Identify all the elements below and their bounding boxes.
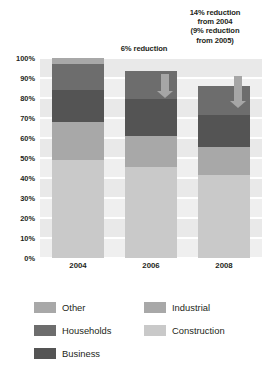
y-tick-0: 0% xyxy=(24,254,35,263)
y-tick-20: 20% xyxy=(20,214,35,223)
annotation-2008: 14% reductionfrom 2004(9% reductionfrom … xyxy=(168,8,262,45)
y-tick-80: 80% xyxy=(20,94,35,103)
legend-swatch-business xyxy=(34,348,56,359)
legend-swatch-households xyxy=(34,325,56,336)
y-tick-40: 40% xyxy=(20,174,35,183)
legend-swatch-construction xyxy=(144,325,166,336)
bar-2006[interactable] xyxy=(125,71,177,258)
down-arrow-icon-2006 xyxy=(157,74,173,98)
legend-label-industrial: Industrial xyxy=(172,301,210,314)
y-tick-60: 60% xyxy=(20,134,35,143)
bar-segment-business-2004[interactable] xyxy=(52,90,104,122)
down-arrow-icon-2008 xyxy=(230,76,246,108)
bar-segment-industrial-2006[interactable] xyxy=(125,136,177,167)
y-tick-70: 70% xyxy=(20,114,35,123)
stacked-bar-chart: 0%10%20%30%40%50%60%70%80%90%100% 2004 2… xyxy=(0,58,266,273)
bar-segment-business-2008[interactable] xyxy=(198,115,250,147)
arrow-head xyxy=(157,91,173,98)
y-tick-100: 100% xyxy=(16,54,35,63)
x-axis: 2004 2006 2008 xyxy=(40,261,262,275)
legend-label-households: Households xyxy=(62,324,112,337)
y-axis: 0%10%20%30%40%50%60%70%80%90%100% xyxy=(0,58,38,258)
annotation-2006: 6% reduction xyxy=(104,44,184,53)
legend-label-construction: Construction xyxy=(172,324,225,337)
arrow-shaft xyxy=(234,76,242,101)
bar-segment-households-2004[interactable] xyxy=(52,64,104,90)
chart-annotations: 6% reduction 14% reductionfrom 2004(9% r… xyxy=(0,0,266,62)
y-tick-50: 50% xyxy=(20,154,35,163)
arrow-head xyxy=(230,101,246,108)
bar-segment-construction-2004[interactable] xyxy=(52,160,104,258)
legend-label-other: Other xyxy=(62,301,85,314)
bar-segment-industrial-2004[interactable] xyxy=(52,122,104,160)
plot-area xyxy=(40,58,262,258)
legend-swatch-other xyxy=(34,302,56,313)
bar-segment-industrial-2008[interactable] xyxy=(198,147,250,175)
arrow-shaft xyxy=(161,74,169,91)
bar-2004[interactable] xyxy=(52,58,104,258)
legend-swatch-industrial xyxy=(144,302,166,313)
bar-segment-other-2004[interactable] xyxy=(52,58,104,64)
bar-2008[interactable] xyxy=(198,86,250,258)
bar-segment-business-2006[interactable] xyxy=(125,99,177,136)
y-tick-30: 30% xyxy=(20,194,35,203)
x-tick-2006: 2006 xyxy=(125,261,177,270)
chart-legend: OtherHouseholdsBusinessIndustrialConstru… xyxy=(22,297,248,373)
legend-label-business: Business xyxy=(62,347,100,360)
bar-segment-construction-2008[interactable] xyxy=(198,175,250,258)
x-tick-2004: 2004 xyxy=(52,261,104,270)
bar-segment-construction-2006[interactable] xyxy=(125,167,177,258)
y-tick-90: 90% xyxy=(20,74,35,83)
y-tick-10: 10% xyxy=(20,234,35,243)
x-tick-2008: 2008 xyxy=(198,261,250,270)
